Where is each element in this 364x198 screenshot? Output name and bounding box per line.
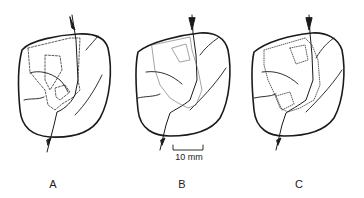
- arrow-bottom-icon: [161, 138, 165, 145]
- arrow-bottom-icon: [277, 138, 281, 145]
- panel-label-a: A: [49, 178, 56, 190]
- sulcus: [200, 38, 218, 55]
- panel-c: [252, 15, 344, 150]
- panel-a: [19, 15, 111, 152]
- sulcus: [316, 38, 334, 58]
- contour-dashed: [55, 85, 70, 100]
- contour-solid: [172, 44, 190, 62]
- panel-b: [136, 15, 230, 150]
- panel-label-c: C: [295, 178, 303, 190]
- fissure: [160, 15, 197, 150]
- sulcus: [190, 68, 226, 110]
- sulcus: [30, 72, 68, 92]
- scale-bar-label: 10 mm: [175, 152, 203, 162]
- outline: [136, 33, 230, 136]
- panel-label-b: B: [178, 178, 185, 190]
- sulcus: [146, 72, 182, 84]
- contour-dotted: [290, 45, 308, 64]
- contour-dotted: [276, 92, 294, 110]
- sulcus: [86, 36, 98, 50]
- contour-dashed: [45, 55, 62, 90]
- arrow-top-icon: [189, 18, 195, 30]
- arrow-top-icon: [306, 18, 312, 30]
- sulcus: [24, 97, 44, 100]
- sulcus: [75, 75, 102, 115]
- diagram-canvas: [0, 0, 364, 198]
- sulcus: [138, 94, 160, 98]
- scale-bar: [173, 145, 203, 150]
- sulcus: [306, 70, 342, 112]
- sulcus: [254, 94, 276, 98]
